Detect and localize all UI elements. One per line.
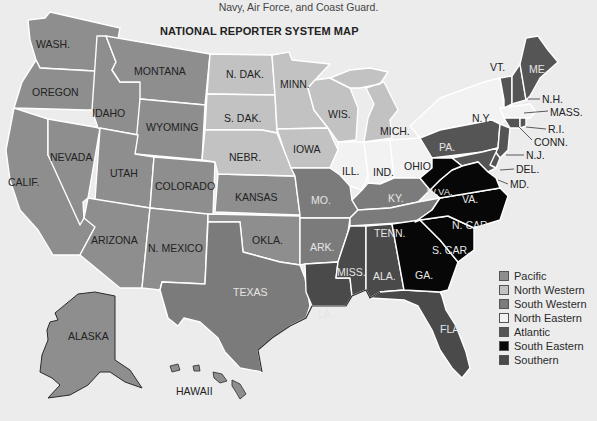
legend-label: North Eastern (514, 312, 582, 324)
label-ndak: N. DAK. (226, 68, 264, 80)
label-minn: MINN. (280, 78, 310, 90)
label-hawaii: HAWAII (176, 385, 213, 397)
legend-item-southern: Southern (499, 353, 587, 367)
label-montana: MONTANA (134, 65, 186, 77)
label-scar: S. CAR. (432, 244, 470, 256)
legend-label: Southern (514, 354, 559, 366)
label-iowa: IOWA (293, 143, 321, 155)
label-arizona: ARIZONA (91, 234, 138, 246)
label-ncar: N. CAR. (452, 219, 491, 231)
label-pa: PA. (439, 141, 455, 153)
legend-item-south-western: South Western (499, 297, 587, 311)
legend-swatch (499, 355, 509, 365)
label-mass: MASS. (550, 106, 583, 118)
label-conn: CONN. (534, 136, 568, 148)
label-ny: N.Y. (472, 112, 491, 124)
legend-swatch (499, 327, 509, 337)
label-mich: MICH. (380, 125, 410, 137)
label-vt: VT. (490, 61, 505, 73)
map-title: NATIONAL REPORTER SYSTEM MAP (160, 25, 480, 37)
label-alaska: ALASKA (68, 330, 109, 342)
legend: Pacific North Western South Western Nort… (499, 269, 587, 367)
label-me: ME. (529, 63, 548, 75)
label-oregon: OREGON (32, 86, 79, 98)
legend-label: North Western (514, 284, 585, 296)
label-ohio: OHIO (404, 160, 431, 172)
legend-label: Pacific (514, 270, 546, 282)
label-ala: ALA. (373, 270, 396, 282)
label-del: DEL. (516, 163, 539, 175)
label-wash: WASH. (36, 38, 70, 50)
label-fla: FLA. (440, 323, 462, 335)
legend-label: Atlantic (514, 326, 550, 338)
label-nh: N.H. (542, 93, 563, 105)
label-calif: CALIF. (8, 176, 40, 188)
label-wva: W.VA. (427, 186, 453, 197)
legend-label: South Eastern (514, 340, 584, 352)
label-ill: ILL. (342, 165, 360, 177)
label-nmexico: N. MEXICO (148, 242, 203, 254)
label-utah: UTAH (110, 167, 138, 179)
legend-swatch (499, 271, 509, 281)
label-idaho: IDAHO (92, 107, 125, 119)
label-ind: IND. (373, 166, 394, 178)
legend-item-north-western: North Western (499, 283, 587, 297)
label-colorado: COLORADO (155, 180, 215, 192)
label-nj: N.J. (526, 149, 545, 161)
label-sdak: S. DAK. (224, 112, 261, 124)
legend-label: South Western (514, 298, 587, 310)
label-kansas: KANSAS (235, 191, 278, 203)
legend-swatch (499, 341, 509, 351)
label-miss: MISS. (337, 266, 366, 278)
label-tenn: TENN. (374, 227, 406, 239)
label-ri: R.I. (548, 123, 564, 135)
label-md: MD. (510, 178, 529, 190)
legend-item-pacific: Pacific (499, 269, 587, 283)
label-nebr: NEBR. (229, 151, 261, 163)
legend-swatch (499, 313, 509, 323)
label-mo: MO. (311, 194, 331, 206)
legend-item-atlantic: Atlantic (499, 325, 587, 339)
label-wyoming: WYOMING (146, 121, 199, 133)
label-ark: ARK. (310, 241, 335, 253)
label-ga: GA. (415, 269, 433, 281)
legend-item-north-eastern: North Eastern (499, 311, 587, 325)
label-okla: OKLA. (252, 234, 283, 246)
legend-swatch (499, 299, 509, 309)
label-wis: WIS. (328, 108, 351, 120)
state-ri (520, 118, 526, 128)
label-texas: TEXAS (233, 286, 267, 298)
label-va: VA. (462, 193, 478, 205)
label-ky: KY. (388, 192, 404, 204)
label-la: LA. (318, 308, 334, 320)
legend-item-south-eastern: South Eastern (499, 339, 587, 353)
legend-swatch (499, 285, 509, 295)
label-nevada: NEVADA (50, 151, 92, 163)
state-alaska (40, 292, 142, 398)
